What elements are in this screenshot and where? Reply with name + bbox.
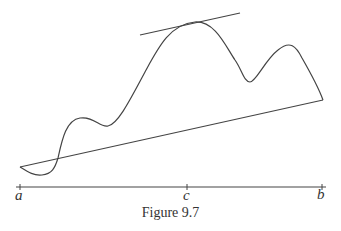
label-a: a bbox=[15, 187, 23, 204]
secant-line bbox=[20, 100, 323, 167]
function-curve bbox=[20, 22, 323, 175]
label-c: c bbox=[183, 187, 190, 204]
label-b: b bbox=[317, 186, 325, 203]
figure-caption: Figure 9.7 bbox=[0, 205, 341, 221]
figure-diagram bbox=[0, 0, 341, 231]
tangent-line bbox=[140, 13, 240, 35]
